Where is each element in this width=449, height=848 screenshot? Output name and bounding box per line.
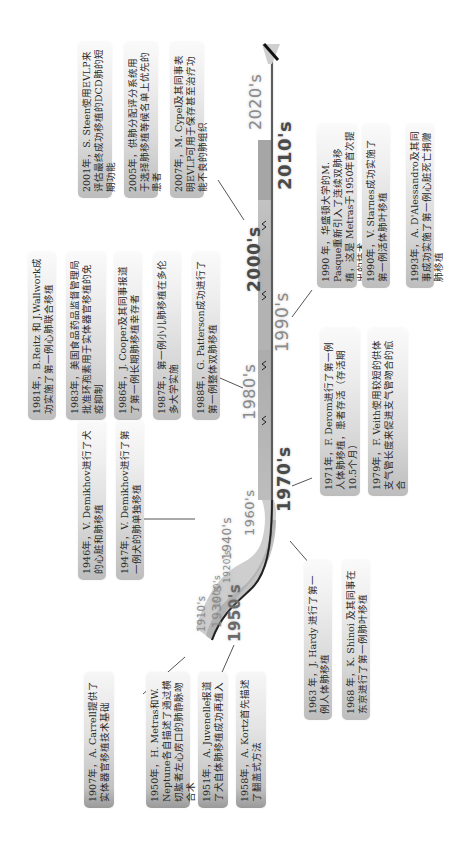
event-box-1987: 1987年，第一例小儿肺移植在多伦多大学实施 (153, 252, 181, 420)
decade-label-1940s: 1940's (220, 517, 234, 560)
decade-label-1990s: 1990's (272, 292, 292, 352)
event-box-1986: 1986年，J. Cooper及其同事报道了第一例长期肺移植幸存者 (114, 252, 142, 420)
lung-transplant-timeline-diagram: 1900's 1910's 1920's 1930's 1940's 1950'… (0, 0, 449, 848)
decade-label-1960s: 1960's (242, 490, 257, 536)
decade-label-2010s: 2010's (274, 121, 295, 190)
event-box-1990-starnes: 1990年，V. Starnes成功实施了第一例活体肺叶移植 (362, 124, 390, 288)
decade-label-2020s: 2020's (246, 74, 265, 130)
event-box-2005: 2005年，供肺分配评分系统用于选择肺移植等候名单上优先的患者 (124, 42, 158, 198)
event-box-1950: 1950年，H. Metras和W. Neptune各自描述了通过横切肱者左心房… (146, 672, 190, 808)
decade-label-1970s: 1970's (274, 446, 294, 512)
event-box-2007: 2007年，M. Cypel及其同事表明EVLP可用于保存甚至治疗功能不良的肺组… (170, 42, 204, 198)
event-box-1988: 1988年，G. Patterson成功进行了第一例整体双肺移植 (192, 252, 220, 420)
decade-label-1950s: 1950's (226, 584, 244, 642)
decade-label-1930s: 1930's (210, 585, 224, 628)
event-box-1951: 1951年，A. Juvenelle报道了犬自体肺移植成功再植入 (198, 672, 228, 808)
event-box-1907: 1907年，A. Carrell提供了实体器官移植技术基础 (84, 672, 114, 808)
event-box-1990-pasque: 1990 年，华盛顿大学的M. Pasque重新引入了连续双肺移植，这是 Met… (317, 124, 357, 288)
event-box-1958: 1958年，A. Kortz首先描述了翻盖式方法 (236, 672, 266, 808)
event-box-1983: 1983年，美国食品药品监督管理局批准环孢素用于实体器官移植的免疫抑制 (66, 252, 106, 420)
event-box-1979: 1979年，F. Veith使用较短的供体支气管长度来促进支气管吻合的愈合 (368, 328, 408, 496)
event-box-1968: 1968 年，K. Shinoi 及其同事在东京进行了第一例肺叶移植 (342, 560, 370, 720)
event-box-1971: 1971年，F. Derom进行了第一例人体肺移植，患者存活（存活期10.5个月… (320, 328, 360, 496)
event-box-1963: 1963 年，J. Hardy 进行了第一例人体肺移植 (304, 560, 332, 720)
decade-label-1980s: 1980's (240, 364, 259, 420)
event-box-1947: 1947年，V. Demikhov进行了第一例犬的肺单独移植 (116, 420, 144, 580)
event-box-1946: 1946年，V. Demikhov进行了犬的心脏和肺移植 (78, 420, 106, 580)
event-box-1981: 1981年，B.Reitz 和 J.Wallwork成功实施了第一例心肺联合移植 (28, 252, 56, 420)
event-box-1993: 1993年，A. D'Alessandro及其同事成功实施了第一例心脏死亡捐赠肺… (406, 124, 434, 288)
decade-label-2000s: 2000's (244, 226, 264, 292)
event-box-2001: 2001年，S. Steen使用EVLP来评估最终成功移植的DCD肺的短期功能 (78, 42, 112, 198)
decade-label-1910s: 1910's (196, 596, 207, 632)
